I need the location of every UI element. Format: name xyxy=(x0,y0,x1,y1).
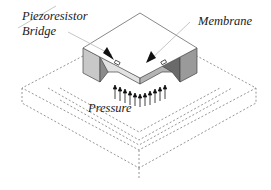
pressure-label: Pressure xyxy=(88,101,132,115)
piezoresistor-label: Piezoresistor xyxy=(22,9,88,23)
membrane-label: Membrane xyxy=(198,14,252,28)
pressure-sensor-diagram: Piezoresistor Bridge Membrane Pressure xyxy=(0,0,271,190)
bridge-label: Bridge xyxy=(22,24,56,38)
